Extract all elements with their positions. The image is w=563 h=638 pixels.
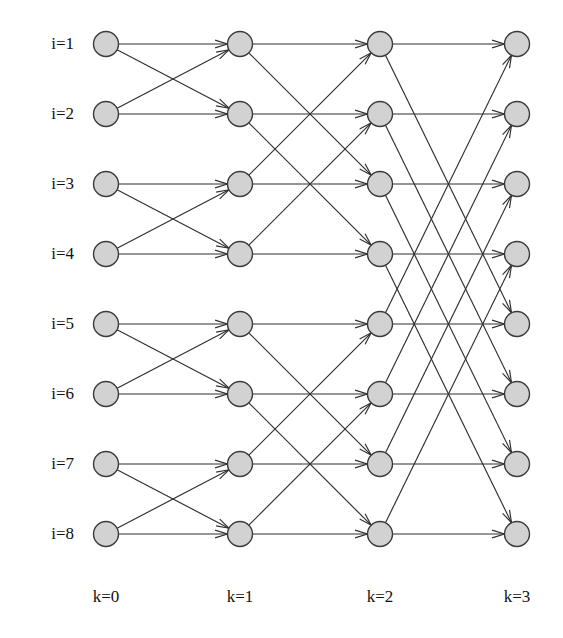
network-node[interactable] (94, 242, 119, 267)
network-node[interactable] (505, 382, 530, 407)
network-node[interactable] (368, 452, 393, 477)
network-node[interactable] (505, 32, 530, 57)
network-node[interactable] (368, 522, 393, 547)
row-label-8: i=8 (12, 524, 74, 544)
network-node[interactable] (505, 172, 530, 197)
column-label-k1: k=1 (210, 587, 270, 607)
column-label-k3: k=3 (487, 587, 547, 607)
edge (119, 110, 228, 118)
network-node[interactable] (228, 242, 253, 267)
network-node[interactable] (228, 522, 253, 547)
column-label-k2: k=2 (350, 587, 410, 607)
edge (253, 250, 368, 258)
network-node[interactable] (94, 312, 119, 337)
network-node[interactable] (228, 32, 253, 57)
row-label-2: i=2 (12, 104, 74, 124)
network-node[interactable] (505, 242, 530, 267)
edge (253, 320, 368, 328)
row-label-1: i=1 (12, 34, 74, 54)
network-node[interactable] (94, 452, 119, 477)
edges-layer (117, 40, 511, 538)
row-label-4: i=4 (12, 244, 74, 264)
network-node[interactable] (228, 172, 253, 197)
edge (253, 530, 368, 538)
column-label-k0: k=0 (76, 587, 136, 607)
network-node[interactable] (94, 382, 119, 407)
network-node[interactable] (368, 32, 393, 57)
network-node[interactable] (368, 242, 393, 267)
edge (119, 40, 228, 48)
network-node[interactable] (228, 312, 253, 337)
row-label-3: i=3 (12, 174, 74, 194)
row-label-7: i=7 (12, 454, 74, 474)
row-label-5: i=5 (12, 314, 74, 334)
network-node[interactable] (94, 102, 119, 127)
network-node[interactable] (228, 102, 253, 127)
network-node[interactable] (94, 522, 119, 547)
figure-canvas: i=1i=2i=3i=4i=5i=6i=7i=8 k=0k=1k=2k=3 (0, 0, 563, 638)
network-node[interactable] (368, 102, 393, 127)
edge (253, 40, 368, 48)
edge (393, 40, 505, 48)
butterfly-network-graph (0, 0, 563, 638)
network-node[interactable] (368, 382, 393, 407)
edge (393, 110, 505, 118)
edge (393, 460, 505, 468)
network-node[interactable] (505, 102, 530, 127)
network-node[interactable] (505, 312, 530, 337)
edge (393, 530, 505, 538)
network-node[interactable] (94, 172, 119, 197)
network-node[interactable] (505, 522, 530, 547)
edge (119, 320, 228, 328)
edge (119, 250, 228, 258)
edge (119, 460, 228, 468)
network-node[interactable] (368, 312, 393, 337)
edge (119, 390, 228, 398)
edge (119, 530, 228, 538)
edge (119, 180, 228, 188)
network-node[interactable] (228, 452, 253, 477)
network-node[interactable] (368, 172, 393, 197)
nodes-layer (94, 32, 530, 547)
network-node[interactable] (94, 32, 119, 57)
network-node[interactable] (505, 452, 530, 477)
row-label-6: i=6 (12, 384, 74, 404)
network-node[interactable] (228, 382, 253, 407)
